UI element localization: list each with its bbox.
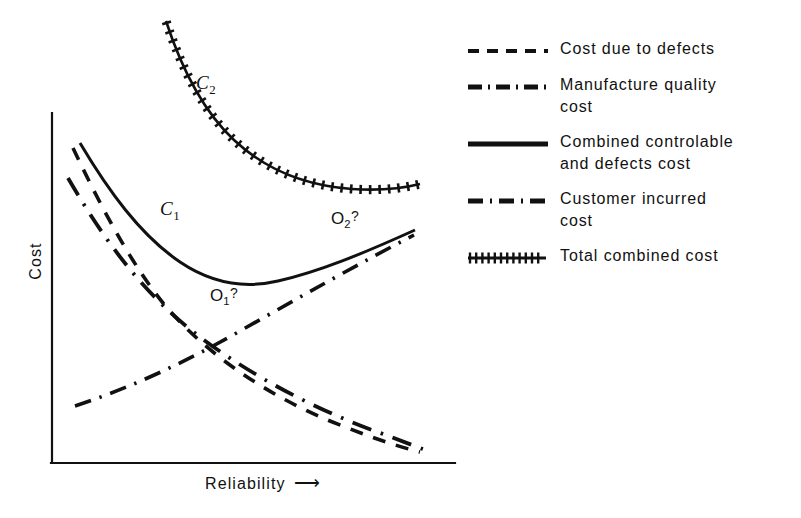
legend-item-cost-due-to-defects: Cost due to defects xyxy=(466,38,796,61)
quality-cost-figure: Cost Reliability⟶ C2 C1 O1? O2? Cost due… xyxy=(0,0,801,518)
y-axis-label: Cost xyxy=(27,221,45,301)
legend-label-manufacture-quality-cost: Manufacture quality cost xyxy=(560,74,717,118)
legend-label-combined-controlable-and-defects-cost: Combined controlable and defects cost xyxy=(560,131,734,175)
optimum-label-o2: O2? xyxy=(331,208,359,230)
optimum-label-o2-question: ? xyxy=(350,208,358,224)
legend-label-line1: Customer incurred xyxy=(560,190,707,207)
legend-swatch-solid-icon xyxy=(466,134,548,154)
legend-label-cost-due-to-defects: Cost due to defects xyxy=(560,38,715,60)
legend-label-line1: Cost due to defects xyxy=(560,40,715,57)
legend-label-line1: Manufacture quality xyxy=(560,76,717,93)
legend-item-manufacture-quality-cost: Manufacture quality cost xyxy=(466,74,796,118)
legend-swatch-plus-hatched-icon xyxy=(466,248,548,268)
legend-label-customer-incurred-cost: Customer incurred cost xyxy=(560,188,707,232)
curve-manufacture-quality-cost xyxy=(75,235,414,406)
legend-label-line1: Combined controlable xyxy=(560,133,734,150)
curve-label-c2: C2 xyxy=(196,72,216,98)
legend-label-total-combined-cost: Total combined cost xyxy=(560,245,719,267)
curve-label-c2-base: C xyxy=(196,72,209,93)
curve-label-c2-sub: 2 xyxy=(209,82,216,97)
curve-customer-incurred-cost xyxy=(68,178,423,449)
curve-cost-due-to-defects xyxy=(73,148,420,452)
legend: Cost due to defects Manufacture quality … xyxy=(466,38,796,281)
optimum-label-o1: O1? xyxy=(210,285,238,307)
x-axis-label-text: Reliability xyxy=(205,475,286,492)
optimum-label-o1-base: O xyxy=(210,286,223,305)
legend-swatch-dashed-icon xyxy=(466,41,548,61)
optimum-label-o2-base: O xyxy=(331,209,344,228)
legend-label-line1: Total combined cost xyxy=(560,247,719,264)
legend-swatch-long-dash-dot-icon xyxy=(466,191,548,211)
legend-item-combined-controlable-and-defects-cost: Combined controlable and defects cost xyxy=(466,131,796,175)
optimum-label-o1-question: ? xyxy=(229,285,237,301)
curve-label-c1-sub: 1 xyxy=(173,208,180,223)
x-axis-arrow-icon: ⟶ xyxy=(294,472,320,494)
legend-swatch-dash-dot-icon xyxy=(466,77,548,97)
legend-label-line2: cost xyxy=(560,210,707,232)
legend-label-line2: and defects cost xyxy=(560,153,734,175)
legend-item-customer-incurred-cost: Customer incurred cost xyxy=(466,188,796,232)
curve-combined-controlable-and-defects-cost xyxy=(80,143,415,284)
curve-label-c1: C1 xyxy=(160,198,180,224)
legend-item-total-combined-cost: Total combined cost xyxy=(466,245,796,268)
curve-label-c1-base: C xyxy=(160,198,173,219)
legend-label-line2: cost xyxy=(560,96,717,118)
x-axis-label: Reliability⟶ xyxy=(205,472,320,494)
curve-total-combined-cost xyxy=(162,21,420,194)
